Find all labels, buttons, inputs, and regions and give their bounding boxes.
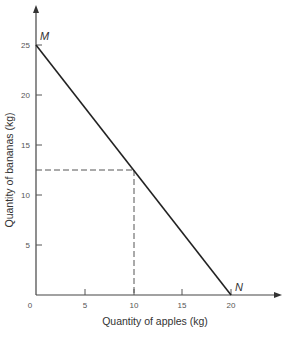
y-ticks: [36, 45, 42, 245]
point-n-label: N: [235, 281, 243, 293]
y-axis-label: Quantity of bananas (kg): [3, 113, 15, 228]
svg-text:15: 15: [21, 141, 30, 150]
x-tick-labels: 0 5 10 15 20: [28, 301, 236, 310]
y-axis-arrow-icon: [33, 5, 39, 13]
svg-text:20: 20: [227, 301, 236, 310]
y-tick-labels: 5 10 15 20 25: [21, 41, 30, 250]
svg-text:5: 5: [83, 301, 88, 310]
svg-text:15: 15: [178, 301, 187, 310]
x-axis-label: Quantity of apples (kg): [102, 315, 208, 327]
svg-text:10: 10: [130, 301, 139, 310]
svg-text:25: 25: [21, 41, 30, 50]
svg-text:20: 20: [21, 91, 30, 100]
svg-text:5: 5: [26, 241, 31, 250]
x-ticks: [85, 289, 231, 295]
x-axis-arrow-icon: [274, 292, 282, 298]
chart: 5 10 15 20 25 0 5 10 15 20 M N Quantity …: [0, 0, 284, 338]
svg-text:0: 0: [28, 301, 33, 310]
svg-text:10: 10: [21, 191, 30, 200]
point-m-label: M: [40, 30, 50, 42]
